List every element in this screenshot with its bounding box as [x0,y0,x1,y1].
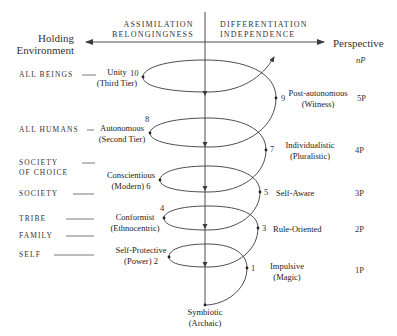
perspective-3p: 3P [355,188,364,198]
stage-3-rule-oriented: Rule-Oriented [273,224,322,235]
assimilation-label: ASSIMILATION BELONGINGNESS [112,20,194,40]
origin-symbiotic: Symbiotic (Archaic) [180,307,230,329]
stage-3-number: 3 [262,223,266,233]
stage-1-impulsive: Impulsive (Magic) [262,261,312,283]
stage-6-conscientious: Conscientious (Modern) 6 [103,170,159,192]
perspective-title: Perspective [333,37,384,49]
holding-society: SOCIETY [19,189,58,198]
holding-self: SELF [19,250,41,259]
holding-all-humans: ALL HUMANS [19,125,79,134]
holding-family: FAMILY [19,231,53,240]
stage-5-number: 5 [264,187,268,197]
differentiation-label: DIFFERENTIATION INDEPENDENCE [220,20,308,40]
perspective-1p: 1P [355,265,364,275]
stage-7-individualistic: Individualistic (Pluralistic) [282,140,338,162]
stage-6-sub: (Modern) 6 [103,181,159,192]
stage-9-post-autonomous: Post-autonomous (Witness) [287,88,349,110]
stage-8-number: 8 [145,114,149,124]
stage-5-self-aware: Self-Aware [276,188,314,199]
stage-8-autonomous: Autonomous (Second Tier) [95,123,149,145]
stage-7-number: 7 [270,144,274,154]
holding-tribe: TRIBE [19,214,46,223]
development-spiral [143,57,276,305]
holding-environment-title: Holding Environment [14,32,74,56]
stage-9-number: 9 [281,93,285,103]
perspective-2p: 2P [355,224,364,234]
stage-4-number: 4 [160,203,164,213]
stage-1-number: 1 [251,263,255,273]
stage-dots [142,76,278,307]
perspective-np: nP [356,55,365,65]
stage-2-self-protective: Self-Protective (Power) 2 [112,245,170,267]
stage-2-sub: (Power) 2 [112,256,170,267]
perspective-5p: 5P [357,93,366,103]
stage-4-conformist: Conformist (Ethnocentric) [107,212,163,234]
stage-10-number: 10 [130,68,139,78]
holding-society-of-choice: SOCIETY OF CHOICE [19,158,68,178]
perspective-4p: 4P [355,145,364,155]
holding-all-beings: ALL BEINGS [19,70,73,79]
